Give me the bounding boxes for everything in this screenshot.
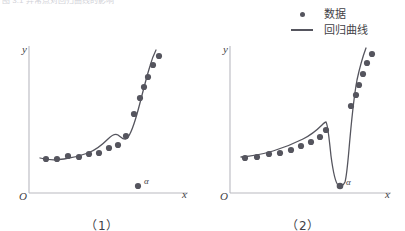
chart-panel-2: y O x α （2） xyxy=(203,38,403,231)
legend-dot-marker-icon xyxy=(285,12,319,17)
data-point xyxy=(123,133,129,139)
data-point xyxy=(308,139,314,145)
data-point xyxy=(115,142,121,148)
data-point xyxy=(54,156,60,162)
chart-1-caption: （1） xyxy=(2,216,202,231)
data-point xyxy=(266,151,272,157)
chart-2-data-points xyxy=(242,51,375,161)
legend-item-curve: 回归曲线 xyxy=(285,22,397,38)
data-point xyxy=(242,155,248,161)
legend-label-data: 数据 xyxy=(319,8,346,21)
data-point xyxy=(353,92,359,98)
data-point xyxy=(369,51,375,57)
data-point xyxy=(141,84,147,90)
chart-2-y-axis-label: y xyxy=(223,43,228,55)
data-point xyxy=(96,150,102,156)
figure-root: 图 3.1 异常点对回归曲线的影响 数据 回归曲线 xyxy=(0,0,405,231)
data-point xyxy=(356,82,362,88)
data-point xyxy=(323,127,329,133)
data-point xyxy=(298,143,304,149)
data-point xyxy=(43,156,49,162)
chart-1-outlier-label: α xyxy=(144,176,149,186)
chart-1-x-axis-label: x xyxy=(182,188,187,200)
chart-1-y-axis-label: y xyxy=(22,43,27,55)
legend-label-curve: 回归曲线 xyxy=(319,24,368,37)
data-point xyxy=(156,53,162,59)
data-point xyxy=(131,111,137,117)
data-point xyxy=(106,145,112,151)
data-point xyxy=(76,154,82,160)
chart-legend: 数据 回归曲线 xyxy=(285,6,397,38)
data-point xyxy=(360,71,366,77)
chart-2-svg xyxy=(203,38,403,231)
legend-item-data: 数据 xyxy=(285,6,397,22)
chart-1-regression-curve xyxy=(40,50,156,160)
data-point xyxy=(145,74,151,80)
chart-1-origin-label: O xyxy=(19,190,27,202)
chart-2-regression-curve xyxy=(241,48,366,186)
chart-panel-1: y O x α （1） xyxy=(2,38,202,231)
chart-2-x-axis-label: x xyxy=(385,188,390,200)
data-point xyxy=(86,151,92,157)
data-point xyxy=(317,134,323,140)
data-point xyxy=(254,154,260,160)
data-point xyxy=(277,150,283,156)
data-point xyxy=(288,147,294,153)
chart-2-outlier-point xyxy=(337,183,344,190)
top-cut-caption: 图 3.1 异常点对回归曲线的影响 xyxy=(2,0,122,5)
data-point xyxy=(65,153,71,159)
legend-line-marker-icon xyxy=(285,29,319,31)
data-point xyxy=(150,62,156,68)
chart-1-svg xyxy=(2,38,202,231)
chart-2-origin-label: O xyxy=(220,190,228,202)
chart-2-outlier-label: α xyxy=(346,177,351,187)
data-point xyxy=(364,60,370,66)
chart-1-data-points xyxy=(43,53,162,162)
chart-2-caption: （2） xyxy=(203,216,403,231)
chart-1-outlier-point xyxy=(135,183,141,189)
data-point xyxy=(348,103,354,109)
data-point xyxy=(137,95,143,101)
